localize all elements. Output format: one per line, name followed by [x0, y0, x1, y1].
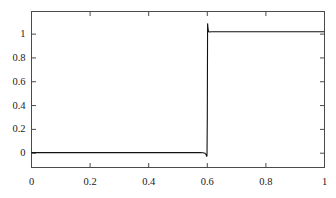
figure-background: [0, 0, 336, 198]
x-tick-label-3: 0.6: [201, 177, 214, 188]
y-tick-label-1: 0.2: [12, 124, 25, 135]
x-tick-label-4: 0.8: [259, 177, 272, 188]
y-tick-label-5: 1: [20, 29, 25, 40]
x-tick-label-5: 1: [322, 177, 327, 188]
y-tick-label-0: 0: [20, 148, 25, 159]
y-tick-label-2: 0.4: [12, 100, 25, 111]
x-tick-label-0: 0: [29, 177, 34, 188]
y-tick-label-3: 0.6: [12, 77, 25, 88]
x-tick-label-1: 0.2: [84, 177, 97, 188]
chart-figure: 00.20.40.60.81 00.20.40.60.81: [0, 0, 336, 198]
y-tick-label-4: 0.8: [12, 53, 25, 64]
x-tick-label-2: 0.4: [142, 177, 155, 188]
plot-canvas: [0, 0, 336, 198]
